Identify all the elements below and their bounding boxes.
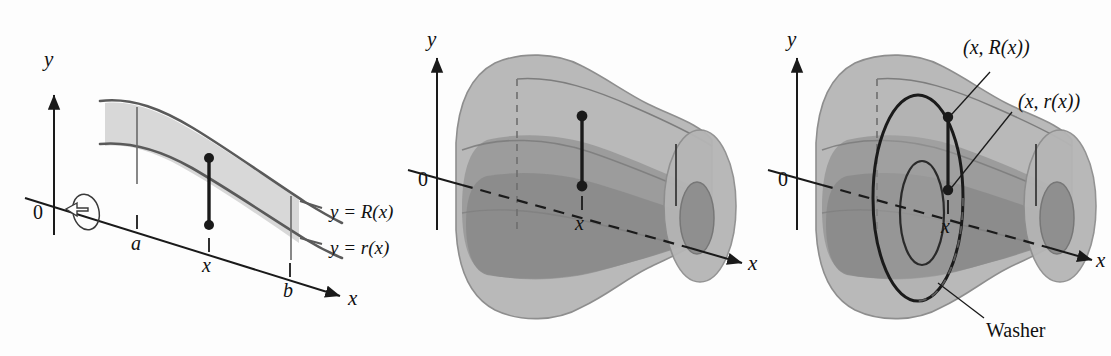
label-outer-point: (x, R(x)) <box>963 36 1030 59</box>
curve-lower-label: y = r(x) <box>328 237 389 259</box>
panel3-point-outer <box>943 112 953 122</box>
panel1-point-upper <box>204 153 214 163</box>
panel-washer-cross-section: y 0 x <box>768 27 1106 341</box>
panel2-origin-label: 0 <box>418 168 428 190</box>
washer-method-figure: y x 0 a x b y = R(x) y = r(x) <box>0 0 1111 356</box>
label-washer: Washer <box>986 319 1046 341</box>
solid3-right-inner-hole <box>1040 182 1074 254</box>
panel1-tick-x-label: x <box>201 254 211 276</box>
panel1-x-axis-label: x <box>347 286 358 310</box>
revolve-arrow-icon <box>66 191 103 232</box>
panel-plane-region: y x 0 a x b y = R(x) y = r(x) <box>25 47 393 310</box>
panel3-tick-x-label: x <box>940 215 950 237</box>
panel2-tick-x-label: x <box>574 212 584 234</box>
panel3-x-axis-left <box>768 170 822 185</box>
panel3-origin-label: 0 <box>778 168 788 190</box>
panel2-y-axis-label: y <box>425 27 437 51</box>
curve-upper-label: y = R(x) <box>328 201 393 223</box>
panel2-x-axis-label: x <box>747 251 758 275</box>
panel1-y-axis-label: y <box>42 47 54 71</box>
panel3-point-inner <box>943 185 953 195</box>
panel-solid-of-revolution: y 0 x <box>408 27 758 319</box>
panel1-tick-b-label: b <box>283 279 293 301</box>
panel1-tick-a-label: a <box>131 232 141 254</box>
solid2-right-inner-hole <box>680 182 714 254</box>
solid-body-2 <box>456 55 736 319</box>
panel3-y-axis-label: y <box>785 27 797 51</box>
panel2-point-upper <box>577 111 588 122</box>
panel1-point-lower <box>204 220 214 230</box>
panel2-x-axis-left <box>408 170 462 185</box>
label-inner-point: (x, r(x)) <box>1018 90 1081 113</box>
panel2-point-lower <box>577 181 588 192</box>
panel1-origin-label: 0 <box>33 201 43 223</box>
panel3-x-axis-label: x <box>1095 248 1106 272</box>
